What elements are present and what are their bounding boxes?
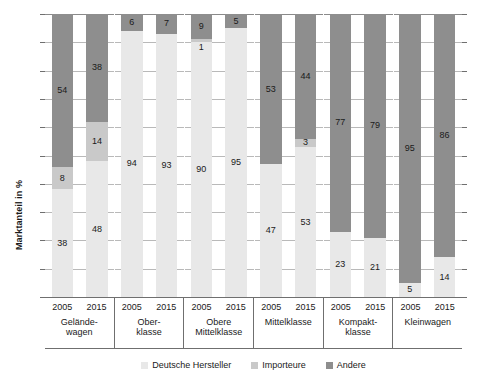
legend-label: Deutsche Hersteller <box>152 360 231 370</box>
bar-column[interactable]: 2377 <box>330 14 352 297</box>
bar-column[interactable]: 38854 <box>52 14 74 297</box>
legend-label: Andere <box>337 360 366 370</box>
x-axis-group: 20052015Kleinwagen <box>393 298 462 348</box>
bar-value-label: 14 <box>92 137 102 146</box>
bar-column[interactable]: 4753 <box>260 14 282 297</box>
x-axis-group-label: Obere Mittelklasse <box>195 317 242 338</box>
bar-value-label: 77 <box>335 118 345 127</box>
x-axis-group-label: Ober- klasse <box>136 317 162 338</box>
bar-segment[interactable]: 38 <box>86 14 108 122</box>
bar-segment[interactable]: 5 <box>225 14 247 28</box>
legend-item[interactable]: Deutsche Hersteller <box>141 360 231 370</box>
bar-value-label: 93 <box>162 161 172 170</box>
x-axis-group: 20052015Kompakt- klasse <box>324 298 394 348</box>
bar-value-label: 5 <box>234 17 239 26</box>
bar-segment[interactable]: 95 <box>399 14 421 283</box>
legend-item[interactable]: Importeure <box>251 360 306 370</box>
bar-segment[interactable]: 21 <box>364 238 386 297</box>
bar-value-label: 54 <box>57 86 67 95</box>
x-axis-year-label: 2015 <box>295 302 315 312</box>
y-axis-tick-right <box>462 240 467 241</box>
x-axis-group-label: Kompakt- klasse <box>339 317 378 338</box>
bar-value-label: 53 <box>301 218 311 227</box>
legend-item[interactable]: Andere <box>326 360 366 370</box>
x-axis: 20052015Gelände- wagen20052015Ober- klas… <box>45 297 462 349</box>
x-axis-year-row: 20052015 <box>254 302 323 312</box>
x-axis-year-label: 2005 <box>401 302 421 312</box>
x-axis-year-label: 2015 <box>365 302 385 312</box>
stacked-bar-chart: Marktanteil in % 38854481438946937901995… <box>0 0 488 381</box>
bar-segment[interactable]: 23 <box>330 232 352 297</box>
bar-value-label: 38 <box>57 239 67 248</box>
y-axis-tick-right <box>462 184 467 185</box>
x-axis-year-label: 2015 <box>86 302 106 312</box>
x-axis-year-label: 2005 <box>122 302 142 312</box>
bar-segment[interactable]: 6 <box>121 14 143 31</box>
bar-segment[interactable]: 14 <box>434 257 456 297</box>
bar-value-label: 1 <box>199 43 204 52</box>
bar-segment[interactable]: 54 <box>52 14 74 167</box>
y-axis-tick-right <box>462 42 467 43</box>
x-axis-group-label: Mittelklasse <box>265 317 312 327</box>
bar-value-label: 86 <box>440 131 450 140</box>
bar-value-label: 6 <box>129 18 134 27</box>
bar-segment[interactable]: 3 <box>295 139 317 147</box>
bar-value-label: 9 <box>199 22 204 31</box>
bar-segment[interactable]: 14 <box>86 122 108 162</box>
bar-segment[interactable]: 44 <box>295 14 317 139</box>
y-axis-tick-right <box>462 127 467 128</box>
legend-swatch-icon <box>251 362 258 369</box>
bar-column[interactable]: 937 <box>156 14 178 297</box>
bar-column[interactable]: 1486 <box>434 14 456 297</box>
bar-value-label: 23 <box>335 260 345 269</box>
bar-segment[interactable]: 94 <box>121 31 143 297</box>
bar-value-label: 7 <box>164 19 169 28</box>
bar-segment[interactable]: 95 <box>225 28 247 297</box>
bar-column[interactable]: 595 <box>399 14 421 297</box>
bar-segment[interactable]: 1 <box>191 39 213 42</box>
bar-segment[interactable]: 77 <box>330 14 352 232</box>
bar-segment[interactable]: 48 <box>86 161 108 297</box>
chart-legend: Deutsche HerstellerImporteureAndere <box>45 357 462 373</box>
bar-value-label: 95 <box>405 144 415 153</box>
bar-column[interactable]: 955 <box>225 14 247 297</box>
x-axis-year-row: 20052015 <box>324 302 393 312</box>
bar-column[interactable]: 53344 <box>295 14 317 297</box>
y-axis-tick-right <box>462 99 467 100</box>
y-axis-tick-right <box>462 14 467 15</box>
bar-column[interactable]: 2179 <box>364 14 386 297</box>
x-axis-year-row: 20052015 <box>184 302 253 312</box>
bar-column[interactable]: 946 <box>121 14 143 297</box>
bar-segment[interactable]: 38 <box>52 189 74 297</box>
bar-segment[interactable]: 86 <box>434 14 456 257</box>
y-axis-tick-right <box>462 212 467 213</box>
bar-segment[interactable]: 47 <box>260 164 282 297</box>
bar-segment[interactable]: 53 <box>295 147 317 297</box>
x-axis-year-label: 2005 <box>191 302 211 312</box>
legend-swatch-icon <box>326 362 333 369</box>
bar-segment[interactable]: 8 <box>52 167 74 190</box>
bar-value-label: 95 <box>231 158 241 167</box>
x-axis-group: 20052015Mittelklasse <box>254 298 324 348</box>
bar-value-label: 8 <box>60 174 65 183</box>
bar-segment[interactable]: 5 <box>399 283 421 297</box>
bar-value-label: 94 <box>127 159 137 168</box>
x-axis-year-label: 2005 <box>331 302 351 312</box>
bar-segment[interactable]: 93 <box>156 34 178 297</box>
bar-column[interactable]: 481438 <box>86 14 108 297</box>
x-axis-year-label: 2015 <box>435 302 455 312</box>
group-separator <box>184 14 185 297</box>
bar-segment[interactable]: 90 <box>191 42 213 297</box>
bar-segment[interactable]: 9 <box>191 14 213 39</box>
x-axis-group: 20052015Obere Mittelklasse <box>184 298 254 348</box>
bar-segment[interactable]: 79 <box>364 14 386 238</box>
legend-label: Importeure <box>262 360 306 370</box>
bar-value-label: 3 <box>303 138 308 147</box>
group-separator <box>114 14 115 297</box>
x-axis-year-label: 2005 <box>52 302 72 312</box>
x-axis-year-label: 2015 <box>156 302 176 312</box>
bar-column[interactable]: 9019 <box>191 14 213 297</box>
bar-segment[interactable]: 7 <box>156 14 178 34</box>
bar-segment[interactable]: 53 <box>260 14 282 164</box>
y-axis-tick-right <box>462 71 467 72</box>
